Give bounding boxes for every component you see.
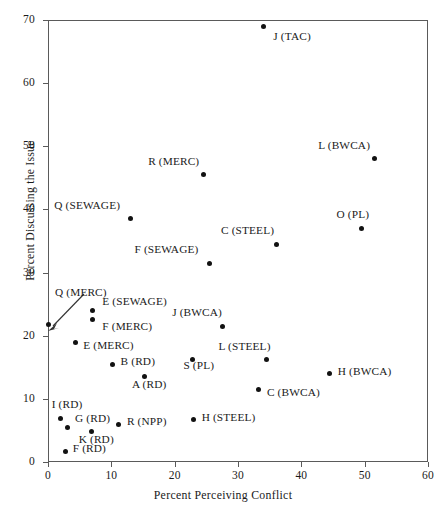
x-axis-title: Percent Perceiving Conflict	[0, 488, 446, 503]
data-point-label: C (STEEL)	[221, 225, 274, 236]
scatter-plot-figure: 010203040506070 0102030405060 Percent Di…	[0, 0, 446, 511]
data-point-label: G (RD)	[75, 413, 110, 424]
plot-frame-right	[427, 20, 428, 462]
data-point-label: S (PL)	[183, 360, 214, 371]
data-point-label: C (BWCA)	[267, 387, 320, 398]
data-point	[220, 324, 225, 329]
x-tick-mark	[175, 462, 176, 467]
data-point-label: Q (MERC)	[55, 287, 107, 298]
data-point-label: F (RD)	[73, 443, 106, 454]
x-tick-label: 20	[160, 470, 190, 482]
data-point	[359, 226, 364, 231]
data-point-label: E (SEWAGE)	[102, 296, 167, 307]
data-point-label: J (BWCA)	[172, 307, 222, 318]
data-point-label: H (BWCA)	[338, 366, 392, 377]
x-tick-mark	[111, 462, 112, 467]
x-tick-label: 60	[413, 470, 443, 482]
x-tick-label: 50	[350, 470, 380, 482]
y-tick-mark	[43, 209, 48, 210]
data-point	[90, 308, 95, 313]
y-tick-label: 70	[23, 14, 35, 26]
data-point-label: L (STEEL)	[219, 341, 271, 352]
x-tick-mark	[428, 462, 429, 467]
data-point-label: L (BWCA)	[318, 140, 370, 151]
data-point-label: H (STEEL)	[202, 412, 256, 423]
data-point-label: O (PL)	[337, 209, 370, 220]
y-tick-mark	[43, 273, 48, 274]
data-point-label: A (RD)	[132, 379, 166, 390]
x-tick-label: 10	[96, 470, 126, 482]
data-point-label: I (RD)	[52, 399, 83, 410]
plot-frame-top	[48, 20, 428, 21]
data-point-label: R (NPP)	[127, 416, 167, 427]
data-point	[207, 261, 212, 266]
y-tick-label: 0	[29, 456, 35, 468]
y-tick-label: 60	[23, 77, 35, 89]
data-point	[261, 24, 266, 29]
data-point	[110, 362, 115, 367]
data-point-label: R (MERC)	[148, 156, 199, 167]
x-tick-label: 0	[33, 470, 63, 482]
x-tick-mark	[301, 462, 302, 467]
x-tick-label: 40	[286, 470, 316, 482]
x-tick-label: 30	[223, 470, 253, 482]
data-point-label: B (RD)	[121, 356, 155, 367]
data-point-label: E (MERC)	[83, 340, 133, 351]
x-tick-mark	[365, 462, 366, 467]
x-tick-mark	[238, 462, 239, 467]
y-axis-title: Percent Discussing the Issue	[23, 91, 38, 331]
data-point-label: Q (SEWAGE)	[54, 200, 120, 211]
y-tick-mark	[43, 399, 48, 400]
data-point	[73, 340, 78, 345]
y-tick-mark	[43, 83, 48, 84]
data-point	[274, 242, 279, 247]
y-tick-mark	[43, 146, 48, 147]
x-tick-mark	[48, 462, 49, 467]
data-point	[65, 425, 70, 430]
data-point-label: F (MERC)	[102, 321, 152, 332]
y-tick-mark	[43, 20, 48, 21]
y-tick-label: 10	[23, 393, 35, 405]
data-point-label: J (TAC)	[273, 31, 310, 42]
plot-area	[48, 20, 428, 462]
data-point	[201, 172, 206, 177]
data-point-label: F (SEWAGE)	[135, 244, 199, 255]
y-tick-label: 20	[23, 330, 35, 342]
y-tick-mark	[43, 336, 48, 337]
